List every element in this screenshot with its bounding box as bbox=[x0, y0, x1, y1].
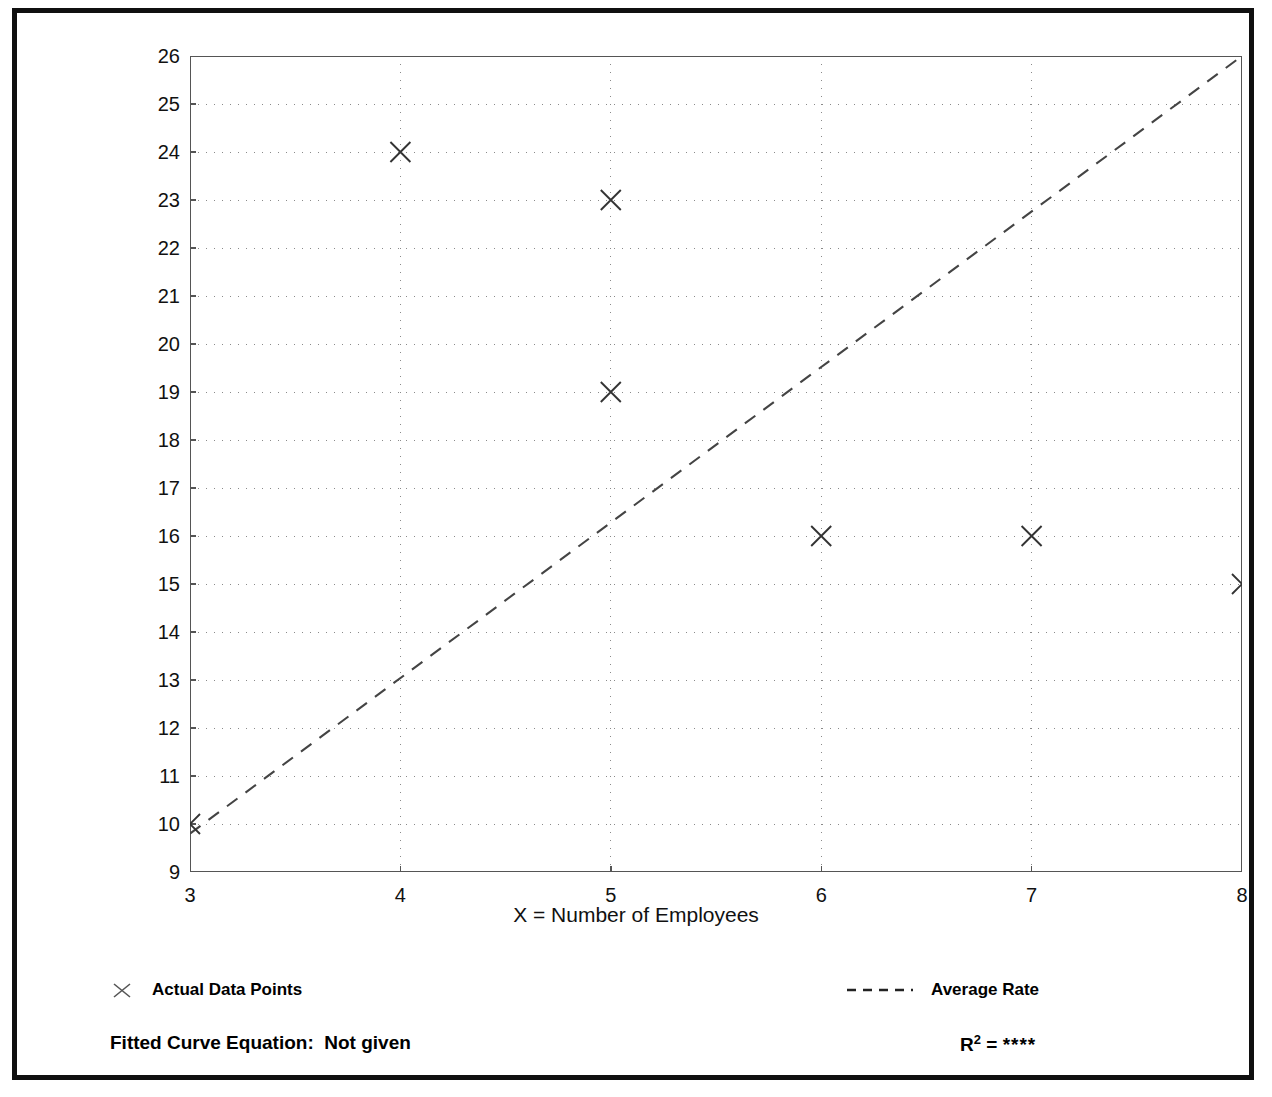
legend-label-average-rate: Average Rate bbox=[931, 980, 1039, 1000]
x-marker-icon bbox=[110, 980, 136, 1000]
y-tick-label: 22 bbox=[134, 238, 180, 258]
average-rate-trend-line bbox=[190, 56, 1242, 834]
r-squared-value: **** bbox=[1003, 1034, 1037, 1055]
axis-lines bbox=[190, 56, 1242, 872]
y-tick-label: 25 bbox=[134, 94, 180, 114]
legend-item-average-rate: Average Rate bbox=[845, 980, 1039, 1000]
y-tick-label: 24 bbox=[134, 142, 180, 162]
y-tick-label: 19 bbox=[134, 382, 180, 402]
fitted-curve-equation: Fitted Curve Equation: Not given bbox=[110, 1032, 411, 1054]
r-squared-equals: = bbox=[981, 1034, 1003, 1055]
y-tick-label: 9 bbox=[134, 862, 180, 882]
y-tick-label: 21 bbox=[134, 286, 180, 306]
r-squared-annotation: R2 = **** bbox=[960, 1032, 1036, 1056]
y-tick-label: 14 bbox=[134, 622, 180, 642]
dashed-line-icon bbox=[845, 980, 915, 1000]
legend-label-actual-data-points: Actual Data Points bbox=[152, 980, 302, 1000]
y-tick-label: 11 bbox=[134, 766, 180, 786]
y-tick-label: 16 bbox=[134, 526, 180, 546]
legend-item-actual-data-points: Actual Data Points bbox=[110, 980, 302, 1000]
y-tick-label: 12 bbox=[134, 718, 180, 738]
y-tick-label: 10 bbox=[134, 814, 180, 834]
y-tick-label: 18 bbox=[134, 430, 180, 450]
y-tick-label: 20 bbox=[134, 334, 180, 354]
y-tick-label: 26 bbox=[134, 46, 180, 66]
chart-footer: Fitted Curve Equation: Not given R2 = **… bbox=[0, 1032, 1272, 1072]
y-axis-tick-labels: 26252423222120191817161514131211109 bbox=[128, 56, 180, 872]
plot-area bbox=[190, 56, 1242, 872]
grid-lines bbox=[190, 56, 1242, 872]
data-point-markers bbox=[190, 142, 1242, 834]
y-tick-label: 13 bbox=[134, 670, 180, 690]
plot-svg bbox=[190, 56, 1242, 872]
y-tick-label: 23 bbox=[134, 190, 180, 210]
y-tick-label: 15 bbox=[134, 574, 180, 594]
y-tick-label: 17 bbox=[134, 478, 180, 498]
tick-marks bbox=[190, 56, 1242, 872]
chart-figure: 26252423222120191817161514131211109 T = … bbox=[0, 0, 1272, 1097]
x-axis-title: X = Number of Employees bbox=[0, 903, 1272, 927]
chart-legend: Actual Data Points Average Rate bbox=[0, 980, 1272, 1012]
r-squared-base: R bbox=[960, 1034, 974, 1055]
r-squared-exponent: 2 bbox=[974, 1032, 981, 1047]
